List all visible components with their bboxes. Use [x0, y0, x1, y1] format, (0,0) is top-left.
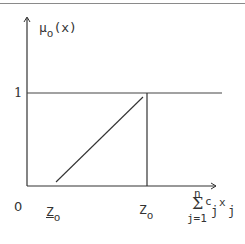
- x-axis-label: n Σ j=1 c j x j: [187, 188, 245, 230]
- membership-ramp: [56, 97, 143, 182]
- sum-lower-limit: j=1: [187, 213, 207, 224]
- upper-z-label: Zo: [139, 203, 153, 216]
- sigma-icon: Σ: [192, 196, 203, 212]
- y-tick-one: 1: [14, 86, 22, 99]
- var: x: [219, 197, 226, 208]
- var-sub: j: [228, 205, 235, 217]
- origin-label: 0: [14, 200, 22, 213]
- lower-z-label: Zo: [46, 205, 60, 218]
- coef-sub: j: [211, 205, 218, 217]
- y-axis-label: μo(x): [39, 21, 77, 34]
